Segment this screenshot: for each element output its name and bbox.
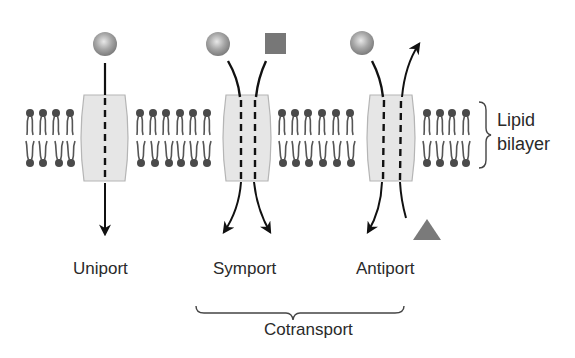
cotransport-brace [196,306,404,320]
symport-label: Symport [213,259,276,279]
sphere-solute-icon [350,31,374,55]
antiport-channel [367,95,415,181]
uniport-transporter [81,32,128,234]
antiport-transporter [350,31,441,240]
sphere-solute-icon [93,32,117,56]
bilayer-brace [479,102,491,168]
bilayer-label: bilayer [497,134,550,155]
symport-transporter [206,32,286,232]
triangle-solute-icon [413,219,441,240]
lipid-label: Lipid [497,110,535,131]
transport-diagram [0,0,575,358]
uniport-label: Uniport [73,259,128,279]
symport-channel [223,95,271,181]
antiport-label: Antiport [356,259,415,279]
sphere-solute-icon [206,32,230,56]
square-solute-icon [265,33,286,54]
cotransport-label: Cotransport [264,320,353,340]
